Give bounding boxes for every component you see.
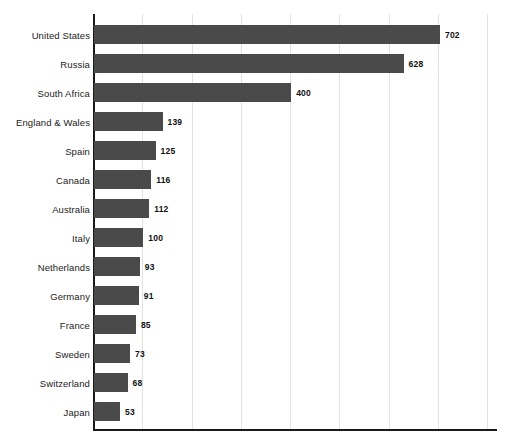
bar-row: Netherlands93 xyxy=(0,257,513,276)
bar-row: Russia628 xyxy=(0,54,513,73)
bar-spain xyxy=(94,141,156,160)
bar-row: Sweden73 xyxy=(0,344,513,363)
bar-united-states xyxy=(94,25,440,44)
bar-france xyxy=(94,315,136,334)
category-label: Australia xyxy=(52,203,90,214)
bar-switzerland xyxy=(94,373,128,392)
bar-sweden xyxy=(94,344,130,363)
bar-value-label: 53 xyxy=(125,407,135,417)
bar-germany xyxy=(94,286,139,305)
category-label: South Africa xyxy=(38,87,90,98)
bar-row: Italy100 xyxy=(0,228,513,247)
bar-value-label: 400 xyxy=(296,88,311,98)
category-label: Spain xyxy=(65,145,90,156)
category-label: Canada xyxy=(56,174,90,185)
bar-value-label: 628 xyxy=(409,59,424,69)
category-label: England & Wales xyxy=(16,116,90,127)
bar-rows-group: United States702Russia628South Africa400… xyxy=(0,0,513,446)
bar-south-africa xyxy=(94,83,291,102)
bar-england-wales xyxy=(94,112,163,131)
bar-value-label: 100 xyxy=(148,233,163,243)
category-label: Russia xyxy=(60,58,90,69)
bar-value-label: 85 xyxy=(141,320,151,330)
category-label: Sweden xyxy=(55,348,90,359)
bar-value-label: 702 xyxy=(445,30,460,40)
bar-row: Germany91 xyxy=(0,286,513,305)
category-label: United States xyxy=(32,29,90,40)
category-label: Netherlands xyxy=(38,261,90,272)
category-label: Italy xyxy=(72,232,90,243)
bar-value-label: 139 xyxy=(168,117,183,127)
bar-row: South Africa400 xyxy=(0,83,513,102)
bar-row: Australia112 xyxy=(0,199,513,218)
bar-netherlands xyxy=(94,257,140,276)
bar-value-label: 91 xyxy=(144,291,154,301)
bar-value-label: 93 xyxy=(145,262,155,272)
bar-canada xyxy=(94,170,151,189)
bar-value-label: 125 xyxy=(161,146,176,156)
bar-row: England & Wales139 xyxy=(0,112,513,131)
bar-row: United States702 xyxy=(0,25,513,44)
category-label: Japan xyxy=(64,406,90,417)
category-label: France xyxy=(60,319,90,330)
bar-italy xyxy=(94,228,143,247)
category-label: Switzerland xyxy=(40,377,90,388)
bar-row: Spain125 xyxy=(0,141,513,160)
bar-row: France85 xyxy=(0,315,513,334)
bar-row: Switzerland68 xyxy=(0,373,513,392)
bar-russia xyxy=(94,54,404,73)
bar-value-label: 73 xyxy=(135,349,145,359)
bar-value-label: 68 xyxy=(133,378,143,388)
category-label: Germany xyxy=(50,290,90,301)
bar-japan xyxy=(94,402,120,421)
bar-value-label: 112 xyxy=(154,204,168,214)
bar-row: Canada116 xyxy=(0,170,513,189)
bar-chart-figure: United States702Russia628South Africa400… xyxy=(0,0,513,446)
bar-australia xyxy=(94,199,149,218)
bar-row: Japan53 xyxy=(0,402,513,421)
bar-value-label: 116 xyxy=(156,175,170,185)
